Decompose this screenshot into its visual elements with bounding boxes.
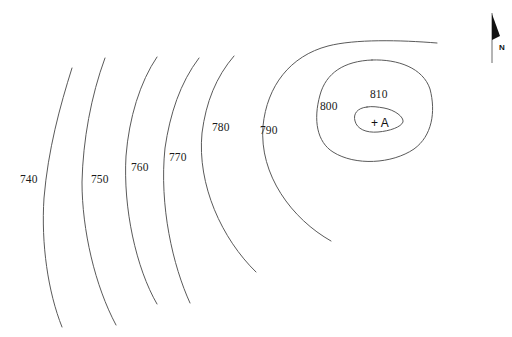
contour-lines-layer [0,0,512,337]
contour-line-750 [82,58,116,325]
contour-line-780 [201,56,256,272]
contour-label-780: 780 [212,122,230,134]
contour-label-800: 800 [320,101,338,113]
contour-line-790 [263,41,437,241]
contour-label-750: 750 [91,174,109,186]
topographic-map: 740750760770780790800810 + A N [0,0,512,337]
contour-label-740: 740 [20,174,38,186]
spot-elevation-marker-a: + A [371,117,389,129]
north-arrow-icon [484,12,510,64]
contour-line-770 [164,58,199,303]
contour-label-810: 810 [370,89,388,101]
contour-label-760: 760 [131,162,149,174]
contour-label-770: 770 [169,152,187,164]
contour-line-740 [43,68,72,327]
contour-label-790: 790 [260,125,278,137]
north-arrow-label: N [499,44,505,52]
contour-line-760 [126,57,157,304]
